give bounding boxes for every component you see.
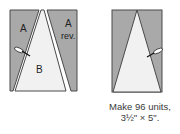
left-unit-exploded: A B A rev. (10, 10, 77, 91)
label-piece-a-rev-suffix: rev. (61, 31, 75, 41)
label-piece-b: B (36, 64, 43, 75)
caption-quantity: Make 96 units, (100, 101, 180, 112)
caption-size: 3½" × 5". (100, 112, 180, 123)
label-piece-a-rev: A (65, 18, 72, 29)
right-unit-sewn (112, 10, 163, 92)
label-piece-a: A (20, 23, 27, 34)
